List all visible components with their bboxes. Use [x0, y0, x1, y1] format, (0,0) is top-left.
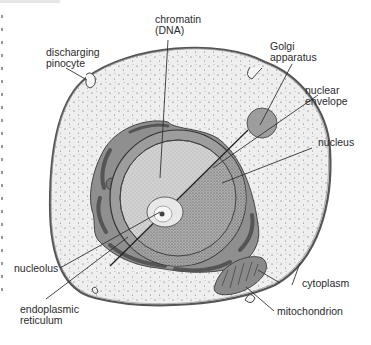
discharging-pinocyte — [86, 73, 96, 88]
nucleus — [110, 130, 248, 266]
label-chromatin: chromatin (DNA) — [155, 14, 201, 36]
label-endoplasmic-reticulum: endoplasmic reticulum — [20, 304, 79, 326]
label-nuclear-envelope: nuclear envelope — [305, 85, 348, 107]
label-discharging-pinocyte: discharging pinocyte — [46, 47, 100, 69]
label-golgi-apparatus: Golgi apparatus — [270, 41, 317, 63]
label-nucleolus: nucleolus — [14, 263, 58, 274]
label-mitochondrion: mitochondrion — [277, 306, 343, 317]
label-nucleus: nucleus — [318, 137, 354, 148]
label-cytoplasm: cytoplasm — [302, 278, 349, 289]
